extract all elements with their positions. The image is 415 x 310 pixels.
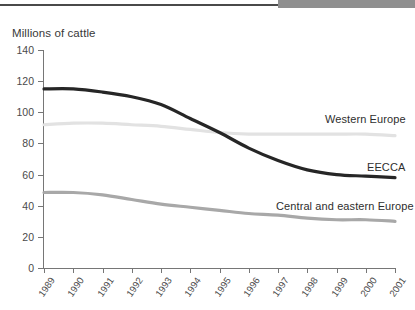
series-label-central-eastern-europe: Central and eastern Europe bbox=[276, 200, 414, 212]
series-label-western-europe: Western Europe bbox=[325, 113, 406, 125]
series-label-eecca: EECCA bbox=[367, 161, 405, 173]
series-lines bbox=[0, 0, 415, 310]
line-chart: Millions of cattle 020406080100120140 19… bbox=[0, 0, 415, 310]
